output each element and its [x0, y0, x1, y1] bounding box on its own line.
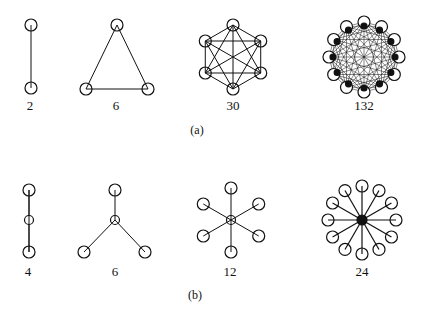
graph-label-a4: 132 — [354, 98, 374, 114]
node-dot — [388, 39, 394, 45]
node-dot — [377, 27, 383, 33]
graph-label-b4: 24 — [356, 264, 369, 280]
node-dot — [334, 70, 340, 76]
panel-caption-b: (b) — [188, 288, 202, 303]
graph-label-b2: 6 — [112, 264, 119, 280]
node-dot — [361, 23, 367, 29]
node-dot — [392, 54, 398, 60]
panel-caption-a: (a) — [190, 123, 203, 138]
node-dot — [330, 54, 336, 60]
graph-label-a3: 30 — [227, 98, 240, 114]
graph-label-a1: 2 — [27, 98, 34, 114]
node-dot — [361, 85, 367, 91]
node-dot — [334, 39, 340, 45]
graph-label-b3: 12 — [224, 264, 237, 280]
graph-label-b1: 4 — [25, 264, 32, 280]
figure: 2 6 30 132 (a) 4 6 12 24 (b) — [0, 0, 421, 311]
node-dot — [377, 81, 383, 87]
node-dot — [346, 27, 352, 33]
node-dot — [388, 70, 394, 76]
hub-node — [357, 215, 367, 225]
graph-label-a2: 6 — [113, 98, 120, 114]
node-dot — [346, 81, 352, 87]
